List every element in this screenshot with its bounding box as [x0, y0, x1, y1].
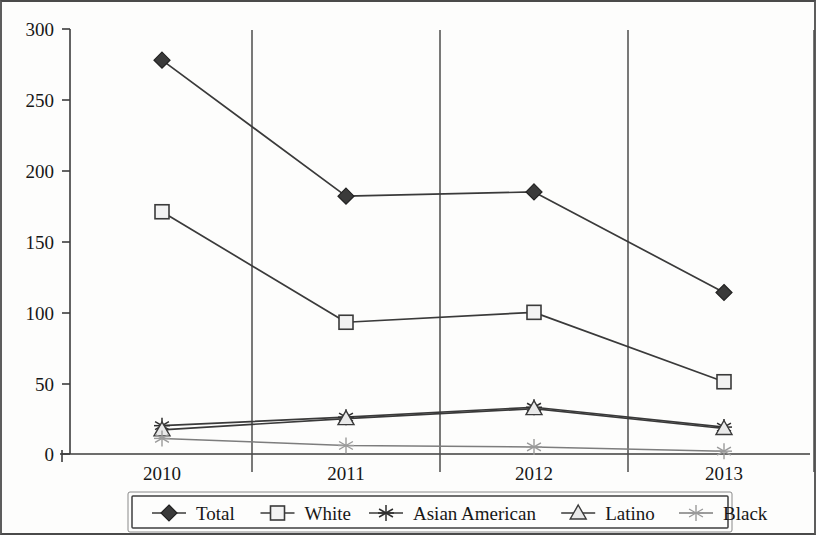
legend-label: Latino — [605, 503, 655, 524]
filled-diamond-marker — [338, 188, 354, 204]
y-tick-label: 100 — [26, 303, 55, 324]
x-tick-label-2012: 2012 — [515, 463, 553, 484]
y-tick-label: 300 — [26, 19, 55, 40]
open-square-marker — [717, 375, 731, 389]
x-tick-label-2010: 2010 — [143, 463, 181, 484]
x-tick-labels: 2010 2011 2012 2013 — [143, 463, 743, 484]
open-square-marker — [527, 305, 541, 319]
legend-label: Total — [196, 503, 235, 524]
series-black — [154, 430, 732, 459]
chart-legend: TotalWhiteAsian AmericanLatinoBlack — [128, 492, 768, 532]
y-tick-labels: 300 250 200 150 100 50 0 — [26, 19, 55, 465]
line-chart-figure: 300 250 200 150 100 50 0 2010 — [2, 2, 814, 533]
figure-page: 300 250 200 150 100 50 0 2010 — [0, 0, 816, 535]
y-tick-label: 0 — [45, 444, 55, 465]
y-tick-marks — [60, 29, 70, 454]
x-tick-label-2011: 2011 — [327, 463, 364, 484]
open-square-marker — [155, 205, 169, 219]
light-asterisk-marker — [526, 439, 542, 455]
series-layer — [154, 52, 732, 459]
y-tick-label: 250 — [26, 90, 55, 111]
series-total — [154, 52, 732, 300]
light-asterisk-marker — [716, 443, 732, 459]
open-square-marker — [271, 506, 285, 520]
legend-label: White — [305, 503, 351, 524]
filled-diamond-marker — [154, 52, 170, 68]
filled-diamond-marker — [716, 285, 732, 301]
y-tick-label: 150 — [26, 232, 55, 253]
y-tick-label: 50 — [35, 374, 54, 395]
open-square-marker — [339, 315, 353, 329]
legend-label: Asian American — [413, 503, 536, 524]
y-tick-label: 200 — [26, 161, 55, 182]
chart-svg: 300 250 200 150 100 50 0 2010 — [2, 2, 816, 535]
legend-label: Black — [723, 503, 768, 524]
light-asterisk-marker — [338, 438, 354, 454]
series-asian-american — [154, 399, 732, 435]
filled-diamond-marker — [526, 184, 542, 200]
x-tick-label-2013: 2013 — [705, 463, 743, 484]
series-white — [155, 205, 731, 389]
